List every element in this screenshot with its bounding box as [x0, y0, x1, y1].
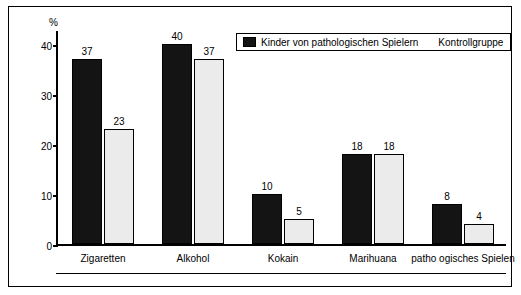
- legend-label-1: Kontrollgruppe: [438, 37, 503, 48]
- bar-value-label-1-1: 37: [203, 46, 214, 57]
- chart-frame: % 010203040 37234037105181884 Zigaretten…: [8, 6, 512, 287]
- bar-0-0: 37: [72, 59, 102, 244]
- bar-value-label-4-0: 8: [444, 191, 450, 202]
- y-axis-tick-mark-4: [53, 45, 58, 47]
- legend-item-1: Kontrollgruppe: [438, 37, 503, 48]
- axis-bottom-rule: [56, 273, 506, 274]
- bar-4-1: 4: [464, 224, 494, 244]
- y-axis-tick-mark-1: [53, 195, 58, 197]
- bar-value-label-2-0: 10: [261, 181, 272, 192]
- bar-value-label-1-0: 40: [171, 31, 182, 42]
- bar-3-0: 18: [342, 154, 372, 244]
- x-axis-label-0: Zigaretten: [80, 253, 125, 264]
- bar-value-label-3-1: 18: [383, 141, 394, 152]
- chart-legend: Kinder von pathologischen Spielern Kontr…: [236, 33, 511, 51]
- bar-1-0: 40: [162, 44, 192, 244]
- bar-4-0: 8: [432, 204, 462, 244]
- bar-0-1: 23: [104, 129, 134, 244]
- y-axis-tick-mark-2: [53, 145, 58, 147]
- bar-2-1: 5: [284, 219, 314, 244]
- bar-value-label-2-1: 5: [296, 206, 302, 217]
- legend-swatch-dark-icon: [243, 37, 256, 47]
- chart-figure: % 010203040 37234037105181884 Zigaretten…: [0, 0, 521, 295]
- bar-3-1: 18: [374, 154, 404, 244]
- bar-value-label-0-1: 23: [113, 116, 124, 127]
- y-axis-unit-label: %: [49, 17, 58, 28]
- bar-value-label-3-0: 18: [351, 141, 362, 152]
- legend-label-0: Kinder von pathologischen Spielern: [261, 37, 418, 48]
- y-axis-tick-mark-0: [53, 245, 58, 247]
- bar-2-0: 10: [252, 194, 282, 244]
- x-axis-label-2: Kokain: [268, 253, 299, 264]
- y-axis-tick-mark-3: [53, 95, 58, 97]
- bar-value-label-4-1: 4: [476, 211, 482, 222]
- x-axis-label-1: Alkohol: [177, 253, 210, 264]
- plot-area: 010203040 37234037105181884 ZigarettenAl…: [56, 31, 506, 246]
- legend-item-0: Kinder von pathologischen Spielern: [243, 37, 418, 48]
- x-axis-label-3: Marihuana: [349, 253, 396, 264]
- x-axis-label-4: patho ogisches Spielen: [411, 253, 514, 264]
- bar-value-label-0-0: 37: [81, 46, 92, 57]
- bar-1-1: 37: [194, 59, 224, 244]
